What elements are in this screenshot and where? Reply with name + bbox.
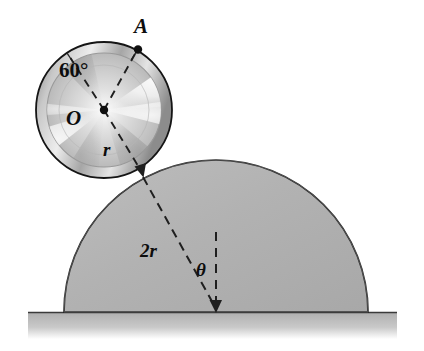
label-radius-r: r	[103, 139, 110, 161]
label-angle-60: 60°	[59, 58, 88, 83]
point-a-dot	[134, 45, 142, 53]
physics-diagram: A 60° O r 2r θ	[0, 0, 424, 351]
center-point-o	[100, 106, 108, 114]
ground-shadow	[28, 313, 397, 339]
label-center-o: O	[66, 106, 81, 131]
ground-group	[28, 313, 397, 340]
label-angle-theta: θ	[196, 259, 206, 281]
label-chord-2r: 2r	[140, 240, 157, 262]
diagram-canvas	[0, 0, 424, 351]
label-point-a: A	[134, 14, 148, 39]
